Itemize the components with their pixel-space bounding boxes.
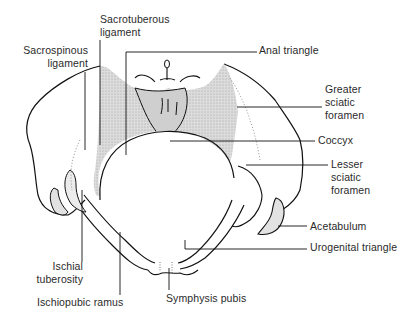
label-line: Symphysis pubis xyxy=(166,292,246,305)
left-ischial-tuberosity-outline xyxy=(65,170,86,212)
label-line: Ischiopubic ramus xyxy=(37,296,123,309)
leader-urogenital xyxy=(185,240,307,249)
label-line: Urogenital triangle xyxy=(310,241,397,254)
label-line: ligament xyxy=(100,26,170,39)
label-symphysis-pubis: Symphysis pubis xyxy=(166,292,246,305)
label-line: Acetabulum xyxy=(310,220,366,233)
label-ischiopubic-ramus: Ischiopubic ramus xyxy=(37,296,123,309)
label-lesser-sciatic-foramen: Lesser sciatic foramen xyxy=(331,158,370,197)
label-line: foramen xyxy=(331,184,370,197)
label-sacrospinous-ligament: Sacrospinous ligament xyxy=(22,44,88,70)
label-line: Sacrotuberous xyxy=(100,13,170,26)
label-urogenital-triangle: Urogenital triangle xyxy=(310,241,397,254)
label-line: ligament xyxy=(22,57,88,70)
label-ischial-tuberosity: Ischial tuberosity xyxy=(30,260,83,286)
label-sacrotuberous-ligament: Sacrotuberous ligament xyxy=(100,13,170,39)
label-line: Greater xyxy=(325,83,364,96)
label-line: Sacrospinous xyxy=(22,44,88,57)
label-line: Lesser xyxy=(331,158,370,171)
label-line: sciatic xyxy=(325,96,364,109)
label-line: Ischial xyxy=(30,260,83,273)
right-ilium-outline xyxy=(224,64,303,210)
label-coccyx: Coccyx xyxy=(318,134,353,147)
label-line: sciatic xyxy=(331,171,370,184)
label-anal-triangle: Anal triangle xyxy=(259,44,319,57)
label-acetabulum: Acetabulum xyxy=(310,220,366,233)
label-line: foramen xyxy=(325,109,364,122)
right-acetabulum xyxy=(258,198,284,235)
right-ischial-tuberosity xyxy=(232,166,262,227)
spinous-process xyxy=(165,60,170,68)
left-ilium-outline xyxy=(27,66,100,215)
label-line: Anal triangle xyxy=(259,44,319,57)
label-line: Coccyx xyxy=(318,134,353,147)
label-greater-sciatic-foramen: Greater sciatic foramen xyxy=(325,83,364,122)
label-line: tuberosity xyxy=(30,273,83,286)
